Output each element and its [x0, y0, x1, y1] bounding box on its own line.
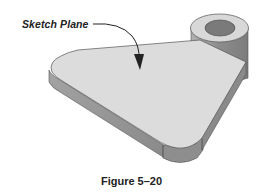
sketch-plane-label: Sketch Plane — [22, 18, 89, 30]
boss-hole — [205, 20, 235, 36]
boss-top — [191, 14, 249, 42]
figure-caption: Figure 5–20 — [0, 175, 263, 187]
